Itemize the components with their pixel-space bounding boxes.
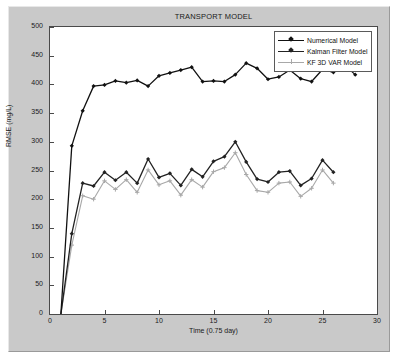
x-tick-label: 20 (256, 317, 280, 324)
series-marker (113, 79, 117, 83)
x-tick-label: 0 (38, 317, 62, 324)
x-tick-label: 25 (311, 317, 335, 324)
series-marker (179, 68, 183, 72)
series-marker (81, 181, 85, 185)
y-tick-mark (50, 56, 54, 57)
x-tick-label: 10 (147, 317, 171, 324)
y-tick-mark (50, 142, 54, 143)
y-tick-label: 250 (9, 166, 43, 173)
y-tick-label: 200 (9, 194, 43, 201)
series-marker (124, 81, 128, 85)
legend-item-3[interactable]: KF 3D VAR Model (278, 57, 367, 68)
x-tick-mark (268, 310, 269, 314)
y-tick-mark (50, 314, 54, 315)
y-tick-label: 400 (9, 79, 43, 86)
x-tick-mark (159, 310, 160, 314)
y-tick-mark (50, 171, 54, 172)
series-marker (102, 83, 106, 87)
x-axis-label: Time (0.75 day) (49, 327, 378, 334)
legend-label: Kalman Filter Model (307, 48, 367, 55)
series-line (61, 142, 334, 314)
y-tick-mark (50, 228, 54, 229)
x-tick-mark (323, 310, 324, 314)
x-tick-label: 30 (365, 317, 389, 324)
figure-container: TRANSPORT MODEL RMSE (mg/L) Time (0.75 d… (8, 6, 390, 352)
x-tick-mark (214, 310, 215, 314)
y-tick-mark (50, 84, 54, 85)
series-marker (92, 84, 96, 88)
legend-item-2[interactable]: Kalman Filter Model (278, 46, 367, 57)
legend-marker (291, 59, 292, 64)
series-marker (81, 194, 85, 198)
series-line (61, 153, 334, 314)
y-tick-label: 0 (9, 309, 43, 316)
legend-item-1[interactable]: Numerical Model (278, 35, 367, 46)
legend-line-swatch (278, 47, 304, 56)
y-tick-mark (50, 27, 54, 28)
y-tick-mark (50, 199, 54, 200)
y-tick-label: 100 (9, 252, 43, 259)
x-tick-label: 15 (202, 317, 226, 324)
x-tick-label: 5 (93, 317, 117, 324)
series-marker (70, 232, 74, 236)
y-tick-mark (50, 113, 54, 114)
legend-line-swatch (278, 58, 304, 67)
y-tick-mark (50, 285, 54, 286)
y-tick-label: 350 (9, 108, 43, 115)
legend-line-swatch (278, 36, 304, 45)
y-tick-mark (50, 257, 54, 258)
series-marker (211, 79, 215, 83)
chart-legend[interactable]: Numerical ModelKalman Filter ModelKF 3D … (274, 31, 372, 72)
chart-title: TRANSPORT MODEL (49, 12, 378, 21)
plot-area: Numerical ModelKalman Filter ModelKF 3D … (49, 26, 378, 315)
y-tick-label: 500 (9, 22, 43, 29)
y-tick-label: 450 (9, 51, 43, 58)
y-tick-label: 300 (9, 137, 43, 144)
series-marker (81, 109, 85, 113)
legend-label: KF 3D VAR Model (307, 59, 362, 66)
series-marker (70, 144, 74, 148)
y-tick-label: 150 (9, 223, 43, 230)
x-tick-mark (105, 310, 106, 314)
series-marker (168, 71, 172, 75)
y-tick-label: 50 (9, 280, 43, 287)
legend-label: Numerical Model (307, 37, 358, 44)
